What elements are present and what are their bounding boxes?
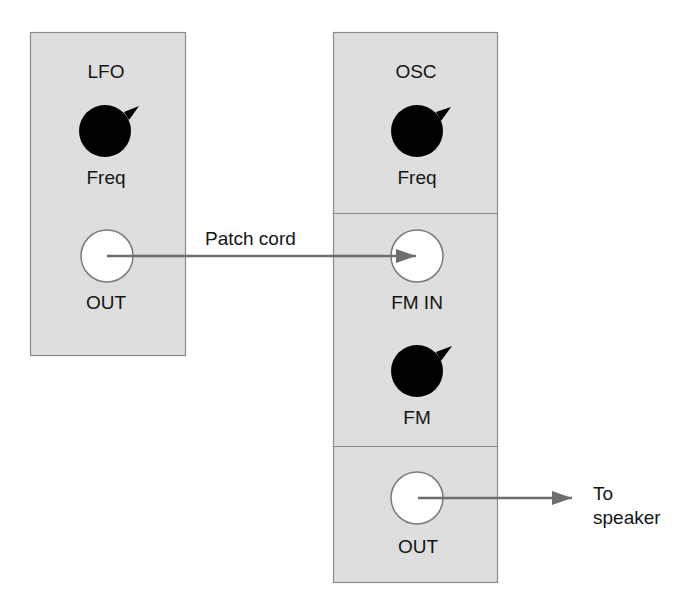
osc-fm-label: FM bbox=[403, 407, 430, 428]
osc-out-label: OUT bbox=[398, 536, 439, 557]
knob-body bbox=[391, 105, 443, 157]
to-label: To bbox=[593, 483, 613, 504]
lfo-module: LFO Freq OUT bbox=[31, 33, 186, 356]
lfo-freq-label: Freq bbox=[86, 167, 125, 188]
knob-body bbox=[391, 345, 443, 397]
lfo-title: LFO bbox=[88, 61, 125, 82]
speaker-label: speaker bbox=[593, 507, 661, 528]
lfo-out-label: OUT bbox=[86, 292, 127, 313]
osc-title: OSC bbox=[395, 61, 436, 82]
osc-freq-label: Freq bbox=[397, 167, 436, 188]
patch-cord-label: Patch cord bbox=[205, 228, 296, 249]
osc-module: OSC Freq FM IN FM OUT bbox=[334, 33, 498, 583]
synth-patch-diagram: LFO Freq OUT OSC Freq FM IN FM OUT Pa bbox=[0, 0, 698, 609]
osc-fm-in-label: FM IN bbox=[391, 292, 443, 313]
knob-body bbox=[79, 105, 131, 157]
